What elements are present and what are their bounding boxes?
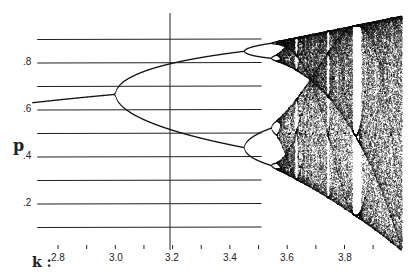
x-axis-label: k : bbox=[32, 254, 52, 270]
chaotic-orbits bbox=[276, 16, 402, 250]
grid-line bbox=[37, 227, 261, 228]
chaotic-region bbox=[276, 16, 402, 250]
horizontal-grid-lines bbox=[37, 39, 261, 228]
y-tick-label: .2 bbox=[23, 197, 31, 208]
y-tick-label: .6 bbox=[23, 103, 31, 114]
x-tick-label: 3.4 bbox=[223, 252, 237, 263]
y-tick-label: .8 bbox=[23, 56, 31, 67]
x-tick-label: 3.0 bbox=[109, 252, 123, 263]
grid-line bbox=[37, 63, 261, 64]
x-tick-label: 2.8 bbox=[51, 252, 65, 263]
grid-line bbox=[37, 39, 261, 40]
grid-line bbox=[37, 204, 261, 205]
grid-line bbox=[37, 86, 261, 87]
grid-line bbox=[37, 180, 261, 181]
x-tick-label: 3.6 bbox=[280, 252, 294, 263]
periodic-orbits bbox=[32, 42, 276, 169]
x-tick-label: 3.8 bbox=[338, 252, 352, 263]
grid-line bbox=[37, 157, 261, 158]
grid-line bbox=[37, 133, 261, 134]
y-tick-label: .4 bbox=[23, 150, 31, 161]
bifurcation-curve bbox=[32, 42, 276, 169]
x-axis-ticks bbox=[58, 245, 373, 249]
grid-line bbox=[37, 110, 261, 111]
bifurcation-diagram bbox=[0, 0, 410, 272]
x-tick-label: 3.2 bbox=[165, 252, 179, 263]
